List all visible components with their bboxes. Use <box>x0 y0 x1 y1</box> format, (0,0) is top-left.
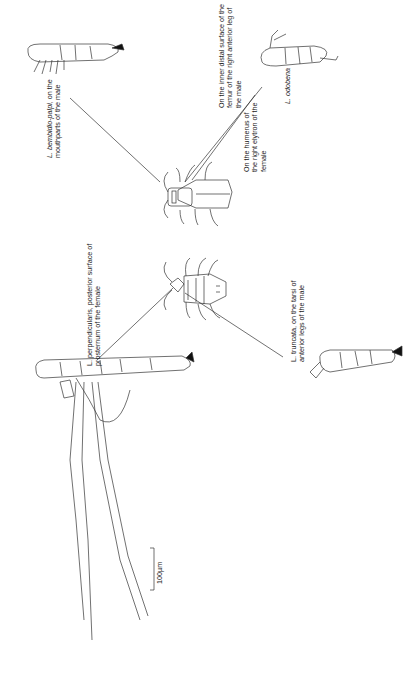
specimen-perpendicularis <box>36 352 194 640</box>
label-truncata: L. truncata, on the tarsi of anterior le… <box>290 280 307 362</box>
leader-line-perpendicularis <box>97 288 173 360</box>
specimen-bembidio-palpi <box>28 44 124 74</box>
leader-line-truncata <box>185 293 283 357</box>
leader-line-bembidio <box>70 98 160 182</box>
label-perpendicularis: L. perpendicularis, posterior surface of… <box>86 244 103 366</box>
label-humerus: On the humerus of the right elytron of t… <box>243 102 268 172</box>
scale-bar <box>150 548 154 590</box>
label-bembidio-palpi: L. bembidio-palpi, on the mouthparts of … <box>46 79 63 158</box>
specimen-truncata <box>310 346 402 378</box>
scale-bar-label: 100µm <box>156 562 164 584</box>
label-inner-distal: On the inner distal surface of the femur… <box>218 4 243 108</box>
beetle-ventral-illustration <box>164 258 226 320</box>
specimen-odobena <box>261 30 338 66</box>
label-odobena: L. odobena <box>284 68 292 104</box>
